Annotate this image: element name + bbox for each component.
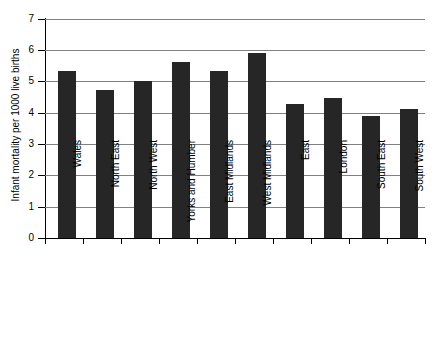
- gridline-5: [45, 81, 425, 82]
- x-tick-label: South West: [413, 140, 427, 250]
- x-tick-label: West Midlands: [261, 140, 275, 250]
- x-tick-label: East: [299, 140, 313, 250]
- x-tick-label: South East: [375, 140, 389, 250]
- gridline-6: [45, 50, 425, 51]
- x-tick-mark: [45, 238, 46, 244]
- bar-chart: Infant mortality per 1000 live births 7 …: [0, 0, 436, 349]
- y-tick-label: 4: [4, 108, 34, 118]
- x-tick-label: London: [337, 140, 351, 250]
- gridline-7: [45, 19, 425, 20]
- y-tick-label: 5: [4, 76, 34, 86]
- y-tick-label: 3: [4, 139, 34, 149]
- x-tick-label: East Midlands: [223, 140, 237, 250]
- x-tick-label: Yorks and Humber: [185, 140, 199, 250]
- y-tick-label: 7: [4, 14, 34, 24]
- x-tick-label: North West: [147, 140, 161, 250]
- y-tick-label: 2: [4, 170, 34, 180]
- x-tick-label: Wales: [71, 140, 85, 250]
- y-tick-label: 0: [4, 233, 34, 243]
- x-tick-label: North East: [109, 140, 123, 250]
- y-tick-label: 6: [4, 45, 34, 55]
- y-tick-label: 1: [4, 202, 34, 212]
